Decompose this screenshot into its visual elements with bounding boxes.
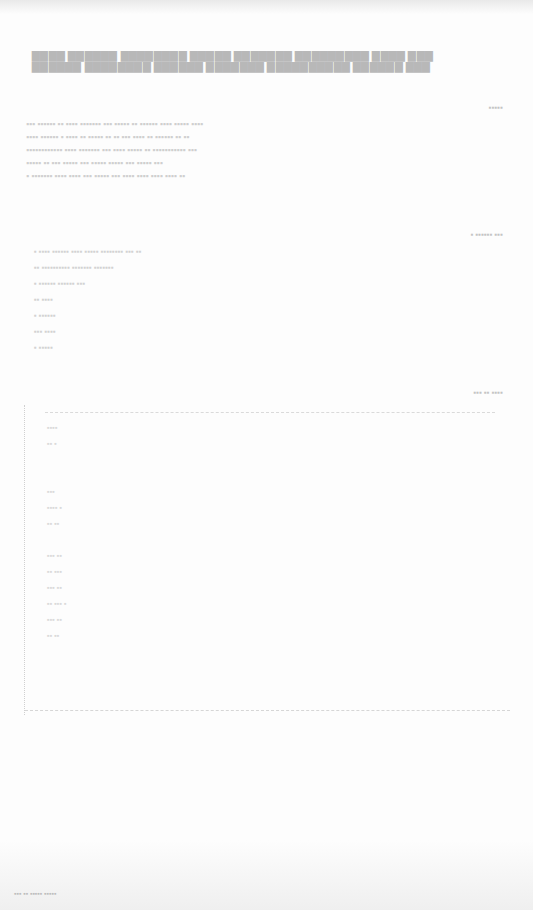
figure-entry: ▪▪▪ [47, 484, 67, 500]
figure-entry: ▪▪▪ ▪▪ [47, 612, 67, 628]
scan-footer: ▪▪▪ ▪▪ ▪▪▪▪▪ ▪▪▪▪▪ [0, 840, 533, 910]
header-line-1: ▇▇▇▇ ▇▇▇▇▇▇ ▇▇▇▇▇▇▇▇ ▇▇▇▇▇ ▇▇▇▇▇▇▇ ▇▇▇▇▇… [32, 50, 502, 61]
figure-entry: ▪▪▪ ▪▪ [47, 548, 67, 564]
figure-entry: ▪▪ ▪▪ [47, 628, 67, 644]
divider [45, 412, 495, 413]
figure-entry [47, 452, 67, 468]
section-label: ▪▪▪▪▪ [489, 103, 503, 112]
list-item: ▪▪ ▪▪▪▪▪▪▪▪▪▪ ▪▪▪▪▪▪▪ ▪▪▪▪▪▪▪ [34, 260, 454, 276]
figure-entry: ▪▪ ▪ [47, 436, 67, 452]
figure-region: ▪▪▪▪ ▪▪ ▪ ▪▪▪ ▪▪▪▪ ▪ ▪▪ ▪▪ ▪▪▪ ▪▪ ▪▪ ▪▪▪… [24, 405, 510, 715]
item-list: ▪ ▪▪▪▪ ▪▪▪▪▪▪ ▪▪▪▪ ▪▪▪▪▪ ▪▪▪▪▪▪▪▪ ▪▪▪ ▪▪… [34, 244, 454, 356]
paragraph-line: ▪▪▪▪ ▪▪▪▪▪▪ ▪ ▪▪▪▪ ▪▪ ▪▪▪▪▪ ▪▪ ▪▪ ▪▪▪ ▪▪… [26, 131, 506, 144]
section-label: ▪▪▪ ▪▪ ▪▪▪▪ [473, 388, 503, 397]
list-item: ▪ ▪▪▪▪ ▪▪▪▪▪▪ ▪▪▪▪ ▪▪▪▪▪ ▪▪▪▪▪▪▪▪ ▪▪▪ ▪▪ [34, 244, 454, 260]
paragraph-line: ▪▪▪▪▪ ▪▪ ▪▪▪ ▪▪▪▪▪ ▪▪▪ ▪▪▪▪▪ ▪▪▪▪▪ ▪▪▪ ▪… [26, 157, 506, 170]
scan-top-shadow [0, 0, 533, 14]
divider [25, 710, 510, 711]
figure-entry: ▪▪ ▪▪ [47, 516, 67, 532]
figure-entries: ▪▪▪▪ ▪▪ ▪ ▪▪▪ ▪▪▪▪ ▪ ▪▪ ▪▪ ▪▪▪ ▪▪ ▪▪ ▪▪▪… [47, 420, 67, 644]
figure-entry: ▪▪ ▪▪▪ [47, 564, 67, 580]
list-item: ▪▪ ▪▪▪▪ [34, 292, 454, 308]
section-label: ▪ ▪▪▪▪▪▪ ▪▪▪ [471, 230, 503, 239]
paragraph-line: ▪ ▪▪▪▪▪▪▪ ▪▪▪▪ ▪▪▪▪ ▪▪▪ ▪▪▪▪▪ ▪▪▪ ▪▪▪▪ ▪… [26, 170, 506, 183]
list-item: ▪ ▪▪▪▪▪▪ [34, 308, 454, 324]
figure-entry [47, 532, 67, 548]
figure-entry [47, 468, 67, 484]
figure-entry: ▪▪▪ ▪▪ [47, 580, 67, 596]
paragraph-line: ▪▪▪▪▪▪▪▪▪▪▪▪ ▪▪▪▪ ▪▪▪▪▪▪▪ ▪▪▪ ▪▪▪▪ ▪▪▪▪▪… [26, 144, 506, 157]
body-paragraph: ▪▪▪ ▪▪▪▪▪▪ ▪▪ ▪▪▪▪ ▪▪▪▪▪▪▪ ▪▪▪ ▪▪▪▪▪ ▪▪ … [26, 118, 506, 183]
paragraph-line: ▪▪▪ ▪▪▪▪▪▪ ▪▪ ▪▪▪▪ ▪▪▪▪▪▪▪ ▪▪▪ ▪▪▪▪▪ ▪▪ … [26, 118, 506, 131]
figure-entry: ▪▪▪▪ [47, 420, 67, 436]
document-header: ▇▇▇▇ ▇▇▇▇▇▇ ▇▇▇▇▇▇▇▇ ▇▇▇▇▇ ▇▇▇▇▇▇▇ ▇▇▇▇▇… [32, 50, 502, 72]
footer-text: ▪▪▪ ▪▪ ▪▪▪▪▪ ▪▪▪▪▪ [14, 890, 56, 898]
figure-entry: ▪▪ ▪▪▪ ▪ [47, 596, 67, 612]
list-item: ▪ ▪▪▪▪▪▪ ▪▪▪▪▪▪ ▪▪▪ [34, 276, 454, 292]
list-item: ▪▪▪ ▪▪▪▪ [34, 324, 454, 340]
figure-entry: ▪▪▪▪ ▪ [47, 500, 67, 516]
header-line-2: ▇▇▇▇▇▇ ▇▇▇▇▇▇▇▇ ▇▇▇▇▇▇ ▇▇▇▇▇▇▇ ▇▇▇▇▇▇▇▇▇… [32, 61, 502, 72]
list-item: ▪ ▪▪▪▪▪ [34, 340, 454, 356]
